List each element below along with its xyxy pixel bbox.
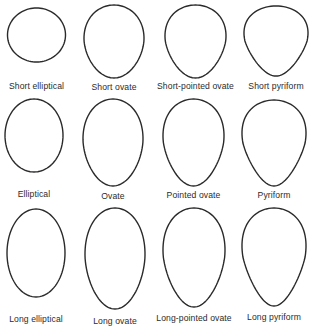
label-short-elliptical: Short elliptical [9, 81, 64, 91]
label-short-pointed-ovate: Short-pointed ovate [157, 81, 234, 91]
egg-long-pyriform [242, 208, 306, 306]
egg-outline [244, 6, 308, 76]
egg-outline [163, 208, 225, 307]
egg-ovate [83, 99, 143, 186]
egg-outline [84, 5, 144, 78]
label-long-pyriform: Long pyriform [247, 312, 301, 322]
egg-long-pointed-ovate [163, 208, 225, 307]
label-pointed-ovate: Pointed ovate [167, 190, 221, 200]
egg-pointed-ovate [163, 99, 224, 186]
egg-outline [7, 209, 65, 297]
label-short-pyriform: Short pyriform [248, 81, 303, 91]
egg-outline [85, 208, 145, 309]
egg-short-pyriform [244, 6, 308, 76]
egg-outline [242, 100, 306, 186]
egg-outline [5, 99, 63, 172]
label-pyriform: Pyriform [258, 190, 291, 200]
egg-outline [242, 208, 306, 306]
egg-pyriform [242, 100, 306, 186]
label-long-elliptical: Long elliptical [9, 314, 63, 324]
egg-outline [8, 8, 66, 62]
egg-outline [83, 99, 143, 186]
label-long-ovate: Long ovate [93, 316, 137, 326]
egg-outline [165, 5, 226, 78]
egg-short-ovate [84, 5, 144, 78]
label-short-ovate: Short ovate [91, 82, 136, 92]
egg-short-pointed-ovate [165, 5, 226, 78]
egg-long-elliptical [7, 209, 65, 297]
egg-long-ovate [85, 208, 145, 309]
egg-shape-diagram [0, 0, 311, 333]
label-elliptical: Elliptical [18, 189, 51, 199]
label-long-pointed-ovate: Long-pointed ovate [156, 313, 231, 323]
egg-elliptical [5, 99, 63, 172]
egg-outline [163, 99, 224, 186]
egg-short-elliptical [8, 8, 66, 62]
label-ovate: Ovate [101, 191, 124, 201]
